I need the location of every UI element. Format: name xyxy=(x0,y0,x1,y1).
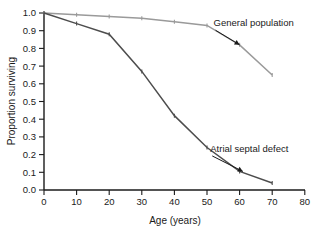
x-tick-label: 70 xyxy=(267,196,278,207)
y-tick-label: 0.4 xyxy=(23,114,36,125)
annotation-label-atrial-septal-defect: Atrial septal defect xyxy=(210,143,289,154)
x-tick-label: 80 xyxy=(300,196,311,207)
x-tick-label: 40 xyxy=(169,196,180,207)
y-tick-label: 0.5 xyxy=(23,96,36,107)
y-tick-label: 0.3 xyxy=(23,131,36,142)
y-tick-label: 0.7 xyxy=(23,61,36,72)
y-tick-label: 0.6 xyxy=(23,78,36,89)
x-axis-ticks xyxy=(44,190,305,195)
y-tick-label: 0.9 xyxy=(23,25,36,36)
y-tick-label: 0.2 xyxy=(23,149,36,160)
y-tick-label: 1.0 xyxy=(23,7,36,18)
x-tick-label: 50 xyxy=(202,196,213,207)
y-tick-label: 0.8 xyxy=(23,43,36,54)
y-tick-label: 0.0 xyxy=(23,184,36,195)
series-markers-atrial-septal-defect xyxy=(44,11,272,185)
y-tick-label: 0.1 xyxy=(23,167,36,178)
x-axis-title: Age (years) xyxy=(149,215,201,226)
annotation-label-general-population: General population xyxy=(214,17,294,28)
x-tick-label: 30 xyxy=(137,196,148,207)
y-axis-title: Proportion surviving xyxy=(6,57,17,145)
series-line-atrial-septal-defect xyxy=(44,13,272,183)
x-tick-label: 0 xyxy=(41,196,46,207)
chart-figure: 0.0 0.1 0.2 0.3 0.4 0.5 0.6 0.7 0.8 0.9 … xyxy=(0,0,324,232)
x-tick-label: 10 xyxy=(71,196,82,207)
survival-curve-chart: 0.0 0.1 0.2 0.3 0.4 0.5 0.6 0.7 0.8 0.9 … xyxy=(0,0,324,232)
x-tick-label: 20 xyxy=(104,196,115,207)
y-axis-tick-labels: 0.0 0.1 0.2 0.3 0.4 0.5 0.6 0.7 0.8 0.9 … xyxy=(23,7,36,195)
x-axis-tick-labels: 0 10 20 30 40 50 60 70 80 xyxy=(41,196,310,207)
x-tick-label: 60 xyxy=(234,196,245,207)
y-axis-ticks xyxy=(39,13,44,190)
annotation-arrow-line xyxy=(212,156,243,171)
